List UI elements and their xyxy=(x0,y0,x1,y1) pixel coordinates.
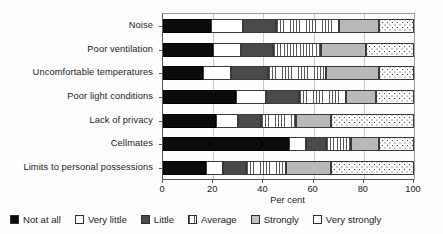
bar-segment xyxy=(216,114,239,128)
legend-label: Little xyxy=(154,214,174,225)
legend-label: Strongly xyxy=(264,214,299,225)
chart-legend: Not at allVery littleLittleAverageStrong… xyxy=(10,211,433,227)
y-axis-tick xyxy=(159,121,163,122)
x-axis-tick-label: 60 xyxy=(307,184,317,194)
legend-item[interactable]: Little xyxy=(141,214,174,225)
y-axis-tick xyxy=(159,144,163,145)
bar-segment xyxy=(163,43,213,57)
x-axis-tick xyxy=(363,179,364,183)
bar-row xyxy=(163,137,414,151)
bar-segment xyxy=(231,66,269,80)
bar-segment xyxy=(346,90,376,104)
bar-segment xyxy=(306,137,326,151)
x-axis-tick-label: 100 xyxy=(405,184,421,194)
gridline xyxy=(414,14,415,180)
bar-segment xyxy=(276,19,339,33)
bar-segment xyxy=(241,43,274,57)
bar-segment xyxy=(223,161,246,175)
x-axis-tick-label: 20 xyxy=(207,184,217,194)
y-axis-tick xyxy=(159,73,163,74)
bar-row xyxy=(163,43,414,57)
legend-swatch-icon xyxy=(313,215,322,224)
bar-segment xyxy=(203,66,231,80)
legend-label: Very little xyxy=(88,214,127,225)
category-label: Poor light conditions xyxy=(67,91,153,101)
bar-segment xyxy=(289,137,307,151)
bar-segment xyxy=(266,90,299,104)
bar-segment xyxy=(163,66,203,80)
bar-segment xyxy=(243,19,276,33)
plot-area xyxy=(162,13,415,180)
bar-segment xyxy=(321,43,366,57)
x-axis-tick-label: 40 xyxy=(257,184,267,194)
category-label: Uncomfortable temperatures xyxy=(33,67,153,77)
bar-segment xyxy=(273,43,321,57)
legend-swatch-icon xyxy=(251,215,260,224)
bar-segment xyxy=(296,114,331,128)
y-axis-tick xyxy=(159,50,163,51)
category-label: Cellmates xyxy=(111,138,153,148)
bar-segment xyxy=(299,90,347,104)
bar-segment xyxy=(379,137,414,151)
bar-segment xyxy=(286,161,331,175)
legend-item[interactable]: Very strongly xyxy=(313,214,381,225)
bar-segment xyxy=(366,43,414,57)
legend-label: Average xyxy=(201,214,237,225)
bar-segment xyxy=(238,114,261,128)
bar-row xyxy=(163,161,414,175)
legend-item[interactable]: Average xyxy=(188,214,237,225)
bar-segment xyxy=(339,19,379,33)
category-label: Lack of privacy xyxy=(89,115,153,125)
y-axis-tick xyxy=(159,97,163,98)
legend-swatch-icon xyxy=(188,215,197,224)
bar-row xyxy=(163,66,414,80)
x-axis-title: Per cent xyxy=(162,195,413,205)
bar-segment xyxy=(163,90,236,104)
legend-label: Very strongly xyxy=(326,214,381,225)
bar-segment xyxy=(261,114,296,128)
legend-label: Not at all xyxy=(23,214,61,225)
x-axis-tick xyxy=(212,179,213,183)
bar-segment xyxy=(268,66,326,80)
x-axis-tick xyxy=(162,179,163,183)
bar-segment xyxy=(376,90,414,104)
x-axis-line xyxy=(162,179,413,180)
bar-segment xyxy=(213,43,241,57)
x-axis-tick xyxy=(413,179,414,183)
bar-segment xyxy=(206,161,224,175)
x-axis-tick-label: 0 xyxy=(159,184,164,194)
y-axis-tick xyxy=(159,26,163,27)
bar-row xyxy=(163,19,414,33)
bar-segment xyxy=(379,19,414,33)
bar-segment xyxy=(379,66,414,80)
bar-segment xyxy=(331,114,414,128)
legend-item[interactable]: Very little xyxy=(75,214,127,225)
legend-swatch-icon xyxy=(10,215,19,224)
legend-item[interactable]: Strongly xyxy=(251,214,299,225)
bar-segment xyxy=(163,19,211,33)
bar-segment xyxy=(163,137,289,151)
bar-segment xyxy=(351,137,379,151)
bar-segment xyxy=(163,114,216,128)
legend-swatch-icon xyxy=(141,215,150,224)
bar-segment xyxy=(331,161,414,175)
bar-segment xyxy=(326,137,351,151)
x-axis-tick xyxy=(262,179,263,183)
x-axis-tick-label: 80 xyxy=(358,184,368,194)
y-axis-tick xyxy=(159,168,163,169)
bar-segment xyxy=(326,66,379,80)
bar-row xyxy=(163,90,414,104)
x-axis-tick xyxy=(313,179,314,183)
category-label-column: NoisePoor ventilationUncomfortable tempe… xyxy=(0,13,157,179)
category-label: Noise xyxy=(129,20,153,30)
legend-swatch-icon xyxy=(75,215,84,224)
category-label: Limits to personal possessions xyxy=(23,162,153,172)
stacked-bar-chart: NoisePoor ventilationUncomfortable tempe… xyxy=(0,0,443,234)
bar-segment xyxy=(236,90,266,104)
category-label: Poor ventilation xyxy=(87,44,153,54)
legend-item[interactable]: Not at all xyxy=(10,214,61,225)
bar-row xyxy=(163,114,414,128)
bar-segment xyxy=(163,161,206,175)
bar-segment xyxy=(211,19,244,33)
bar-segment xyxy=(246,161,286,175)
